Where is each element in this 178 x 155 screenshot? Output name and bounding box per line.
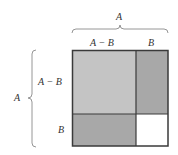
left-brace-icon [0, 0, 178, 155]
top-segment-label-b: B [148, 38, 154, 48]
area-model-diagram: A A − B B A A − B B [0, 0, 178, 155]
left-segment-label-a-minus-b: A − B [38, 77, 62, 87]
top-segment-label-a-minus-b: A − B [90, 38, 114, 48]
left-brace-label: A [14, 93, 20, 103]
left-segment-label-b: B [58, 125, 64, 135]
top-brace-label: A [116, 12, 122, 22]
